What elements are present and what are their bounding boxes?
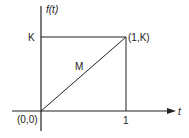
diagonal-label: M	[75, 61, 83, 72]
k-label: K	[28, 32, 35, 43]
origin-label: (0,0)	[17, 114, 38, 125]
point-label: (1,K)	[128, 32, 150, 43]
x-axis-arrow-icon	[167, 108, 176, 114]
x-axis-label: t	[178, 106, 182, 117]
diagram: f(t) K (1,K) M (0,0) 1 t	[0, 0, 189, 138]
x-tick-label: 1	[123, 115, 129, 126]
y-axis-label: f(t)	[46, 4, 58, 15]
diagonal-m	[41, 37, 126, 111]
